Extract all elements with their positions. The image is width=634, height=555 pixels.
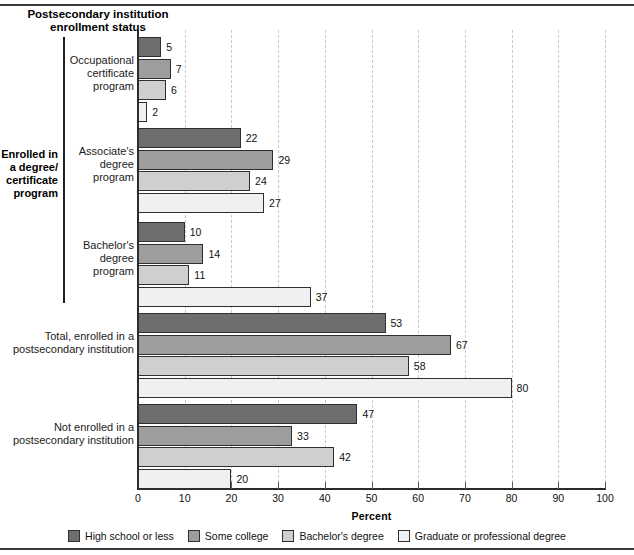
gridline-80 xyxy=(512,30,513,488)
bar xyxy=(138,335,451,355)
gridline-90 xyxy=(558,30,559,488)
category-label-wrap: Associate's degree program xyxy=(8,145,134,184)
bar xyxy=(138,244,203,264)
category-label: Not enrolled in a postsecondary institut… xyxy=(8,421,134,447)
bar-value-label: 2 xyxy=(152,102,158,122)
bottom-divider xyxy=(0,548,634,550)
bar-value-label: 14 xyxy=(208,244,220,264)
legend: High school or lessSome collegeBachelor'… xyxy=(0,530,634,542)
legend-swatch-icon xyxy=(188,530,200,542)
bar xyxy=(138,426,292,446)
legend-item[interactable]: Some college xyxy=(188,530,269,542)
tick-50 xyxy=(372,482,373,489)
bar xyxy=(138,287,311,307)
bar-value-label: 22 xyxy=(246,128,258,148)
tick-label-90: 90 xyxy=(543,492,573,504)
bar-value-label: 6 xyxy=(171,80,177,100)
legend-swatch-icon xyxy=(282,530,294,542)
category-label-wrap: Not enrolled in a postsecondary institut… xyxy=(8,421,134,447)
column-header: Postsecondary institution enrollment sta… xyxy=(18,8,178,34)
gridline-100 xyxy=(605,30,606,488)
bar xyxy=(138,469,231,489)
bar-value-label: 42 xyxy=(339,447,351,467)
category-label-wrap: Total, enrolled in a postsecondary insti… xyxy=(8,330,134,356)
chart-root: Postsecondary institution enrollment sta… xyxy=(0,0,634,555)
x-axis-title: Percent xyxy=(138,510,605,522)
bar xyxy=(138,59,171,79)
bar xyxy=(138,150,273,170)
tick-label-60: 60 xyxy=(403,492,433,504)
bar xyxy=(138,37,161,57)
bar xyxy=(138,447,334,467)
legend-label: Bachelor's degree xyxy=(299,530,383,542)
bar xyxy=(138,265,189,285)
tick-60 xyxy=(418,482,419,489)
bar-value-label: 27 xyxy=(269,193,281,213)
legend-item[interactable]: Bachelor's degree xyxy=(282,530,383,542)
tick-90 xyxy=(558,482,559,489)
gridline-70 xyxy=(465,30,466,488)
bar xyxy=(138,102,147,122)
bar-value-label: 5 xyxy=(166,37,172,57)
legend-item[interactable]: High school or less xyxy=(68,530,174,542)
bar-value-label: 80 xyxy=(517,378,529,398)
tick-30 xyxy=(278,482,279,489)
tick-label-80: 80 xyxy=(497,492,527,504)
category-label: Total, enrolled in a postsecondary insti… xyxy=(8,330,134,356)
legend-swatch-icon xyxy=(68,530,80,542)
bar xyxy=(138,171,250,191)
bar-value-label: 29 xyxy=(278,150,290,170)
category-label: Associate's degree program xyxy=(8,145,134,184)
legend-swatch-icon xyxy=(398,530,410,542)
bar xyxy=(138,313,386,333)
bar-value-label: 33 xyxy=(297,426,309,446)
tick-label-30: 30 xyxy=(263,492,293,504)
tick-20 xyxy=(231,482,232,489)
tick-label-50: 50 xyxy=(357,492,387,504)
legend-label: High school or less xyxy=(85,530,174,542)
bar xyxy=(138,128,241,148)
bar-value-label: 47 xyxy=(362,404,374,424)
category-label-wrap: Bachelor's degree program xyxy=(8,239,134,278)
tick-label-10: 10 xyxy=(170,492,200,504)
bar xyxy=(138,80,166,100)
tick-label-20: 20 xyxy=(216,492,246,504)
tick-70 xyxy=(465,482,466,489)
tick-40 xyxy=(325,482,326,489)
bar-value-label: 11 xyxy=(194,265,205,285)
bar xyxy=(138,356,409,376)
category-label: Bachelor's degree program xyxy=(8,239,134,278)
category-label: Occupational certificate program xyxy=(8,54,134,93)
bar-value-label: 67 xyxy=(456,335,468,355)
bar-value-label: 20 xyxy=(236,469,248,489)
tick-100 xyxy=(605,482,606,489)
bar-value-label: 10 xyxy=(190,222,202,242)
tick-label-100: 100 xyxy=(590,492,620,504)
bar-value-label: 37 xyxy=(316,287,328,307)
bar-value-label: 53 xyxy=(391,313,403,333)
tick-label-40: 40 xyxy=(310,492,340,504)
bar xyxy=(138,404,357,424)
bar-value-label: 7 xyxy=(176,59,182,79)
legend-label: Some college xyxy=(205,530,269,542)
category-label-wrap: Occupational certificate program xyxy=(8,54,134,93)
bar xyxy=(138,222,185,242)
gridline-60 xyxy=(418,30,419,488)
bar xyxy=(138,378,512,398)
legend-label: Graduate or professional degree xyxy=(415,530,566,542)
bar-value-label: 58 xyxy=(414,356,426,376)
tick-80 xyxy=(512,482,513,489)
bar xyxy=(138,193,264,213)
legend-item[interactable]: Graduate or professional degree xyxy=(398,530,566,542)
bar-value-label: 24 xyxy=(255,171,267,191)
tick-label-0: 0 xyxy=(123,492,153,504)
top-divider xyxy=(0,4,634,6)
tick-label-70: 70 xyxy=(450,492,480,504)
